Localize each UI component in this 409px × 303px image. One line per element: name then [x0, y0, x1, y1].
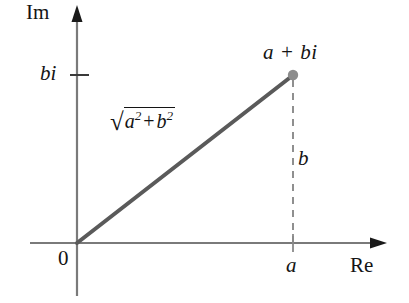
- complex-plane-figure: Im Re 0 bi a b a + bi √a2+b2: [0, 0, 409, 303]
- modulus-vector: [77, 76, 292, 243]
- radicand-exponent-b: 2: [167, 108, 174, 123]
- imaginary-part-label: b: [298, 148, 309, 169]
- imaginary-axis-tick-label: bi: [40, 63, 56, 84]
- radicand: a2+b2: [124, 107, 175, 131]
- radical-icon: √: [110, 109, 124, 134]
- real-axis-tick-label: a: [286, 255, 297, 276]
- real-axis-label: Re: [350, 255, 373, 276]
- origin-label: 0: [58, 248, 69, 269]
- complex-point-label: a + bi: [263, 42, 318, 63]
- radicand-operator: +: [141, 110, 156, 132]
- radicand-term-b: b: [157, 110, 167, 132]
- imaginary-axis-arrowhead: [72, 5, 83, 22]
- complex-point-marker: [288, 70, 298, 80]
- real-axis-arrowhead: [370, 238, 387, 249]
- imaginary-axis-label: Im: [26, 2, 49, 23]
- modulus-label: √a2+b2: [110, 108, 175, 133]
- square-root-expression: √a2+b2: [110, 108, 175, 133]
- radicand-term-a: a: [125, 110, 135, 132]
